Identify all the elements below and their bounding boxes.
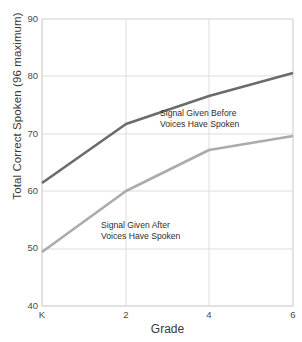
plot-area bbox=[0, 0, 302, 342]
annotation-before-line2: Voices Have Spoken bbox=[160, 119, 239, 130]
annotation-after-line1: Signal Given After bbox=[101, 220, 180, 231]
annotation-after-line2: Voices Have Spoken bbox=[101, 231, 180, 242]
annotation-before: Signal Given Before Voices Have Spoken bbox=[160, 108, 239, 130]
chart-container: Total Correct Spoken (96 maximum) 90 80 … bbox=[0, 0, 302, 342]
annotation-before-line1: Signal Given Before bbox=[160, 108, 239, 119]
gridlines bbox=[42, 19, 293, 306]
annotation-after: Signal Given After Voices Have Spoken bbox=[101, 220, 180, 242]
